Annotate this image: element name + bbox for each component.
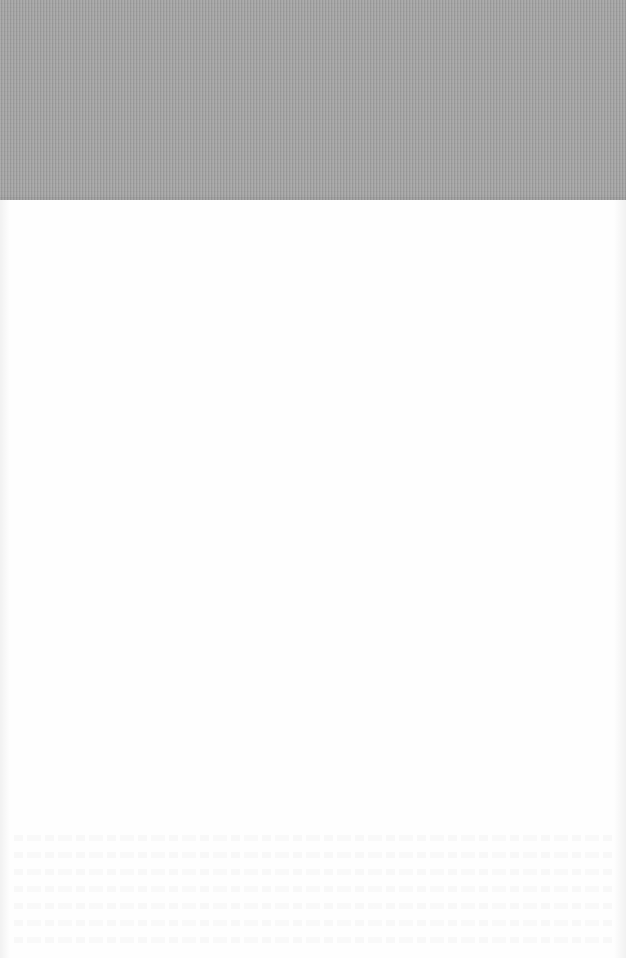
bleed-row [14,937,612,943]
gray-textured-band [0,0,626,200]
scanned-page [0,0,626,958]
bleed-row [14,835,612,841]
bleed-through-text [14,835,612,950]
bleed-row [14,869,612,875]
left-edge-shadow [0,200,10,958]
bleed-row [14,886,612,892]
bleed-row [14,852,612,858]
bleed-row [14,903,612,909]
right-edge-shadow [614,200,626,958]
bleed-row [14,920,612,926]
